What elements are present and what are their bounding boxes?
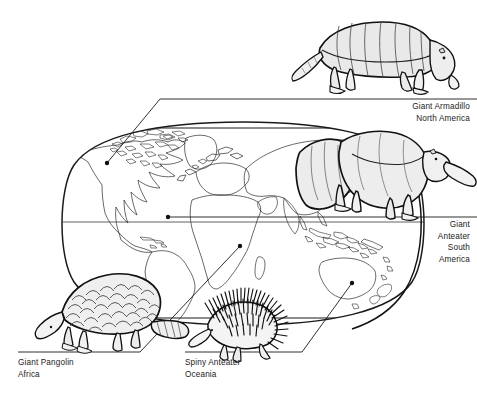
label-anteater-region-line2: America bbox=[330, 254, 470, 266]
pangolin-leg-3 bbox=[113, 333, 122, 351]
pangolin-tail bbox=[151, 321, 188, 339]
pangolin-eye bbox=[50, 326, 52, 328]
map-dot-oceania bbox=[350, 281, 354, 285]
label-anteater-animal-line1: Giant bbox=[330, 219, 470, 231]
label-giant-armadillo: Giant Armadillo North America bbox=[330, 101, 477, 124]
map-dot-north-america bbox=[105, 161, 109, 165]
diagram-artwork bbox=[0, 0, 477, 408]
label-pangolin-animal: Giant Pangolin bbox=[18, 357, 74, 369]
echidna-eye bbox=[211, 329, 213, 331]
anteater-eye bbox=[435, 158, 438, 161]
armadillo-eye bbox=[443, 57, 446, 60]
armadillo-snout bbox=[449, 75, 459, 89]
armadillo-tail bbox=[292, 52, 323, 81]
label-anteater-region-line1: South bbox=[330, 242, 470, 254]
anteater-snout bbox=[444, 162, 476, 186]
pangolin-leg-2 bbox=[64, 327, 73, 346]
label-anteater-animal-line2: Anteater bbox=[330, 231, 470, 243]
label-pangolin-region: Africa bbox=[18, 369, 74, 381]
label-armadillo-animal: Giant Armadillo bbox=[330, 101, 470, 113]
giant-armadillo-illustration bbox=[292, 22, 459, 94]
map-dot-africa bbox=[238, 244, 242, 248]
label-giant-pangolin: Giant Pangolin Africa bbox=[18, 357, 74, 380]
label-armadillo-region: North America bbox=[330, 113, 470, 125]
label-echidna-region: Oceania bbox=[185, 369, 240, 381]
pangolin-leg-1 bbox=[79, 331, 88, 349]
echidna-snout bbox=[189, 329, 211, 347]
label-echidna-animal: Spiny Anteater bbox=[185, 357, 240, 369]
label-giant-anteater: Giant Anteater South America bbox=[330, 219, 477, 265]
figure-canvas: Giant Armadillo North America Giant Ante… bbox=[0, 0, 477, 408]
label-spiny-anteater: Spiny Anteater Oceania bbox=[185, 357, 240, 380]
pangolin-head bbox=[35, 312, 64, 339]
map-dot-south-america bbox=[166, 215, 170, 219]
